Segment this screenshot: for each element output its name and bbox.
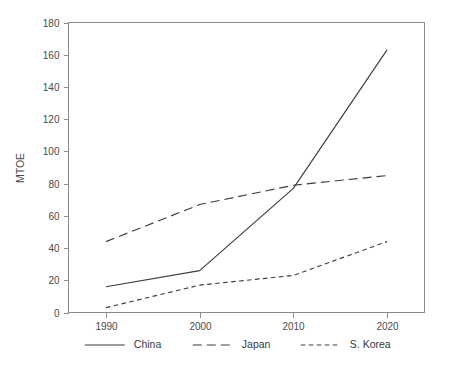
series-layer	[106, 50, 387, 308]
line-chart-figure: 020406080100120140160180 199020002010202…	[0, 0, 450, 369]
x-tick-label: 2010	[282, 321, 305, 332]
y-tick-label: 80	[48, 179, 60, 190]
y-tick-label: 140	[43, 82, 60, 93]
series-line-japan	[106, 176, 387, 242]
series-line-s-korea	[106, 242, 387, 308]
y-axis-title: MTOE	[14, 153, 26, 183]
y-tick-label: 180	[43, 18, 60, 29]
x-tick-label: 2020	[376, 321, 399, 332]
chart-legend: ChinaJapanS. Korea	[85, 338, 391, 350]
y-tick-label: 40	[48, 243, 60, 254]
y-tick-label: 60	[48, 211, 60, 222]
y-tick-label: 20	[48, 275, 60, 286]
y-tick-label: 160	[43, 50, 60, 61]
plot-frame	[69, 23, 425, 313]
chart-canvas: 020406080100120140160180 199020002010202…	[0, 0, 450, 369]
x-tick-label: 1990	[95, 321, 118, 332]
y-tick-label: 0	[54, 308, 60, 319]
y-axis: 020406080100120140160180	[43, 18, 69, 319]
legend-label-japan: Japan	[242, 338, 271, 350]
y-tick-label: 120	[43, 114, 60, 125]
x-tick-label: 2000	[189, 321, 212, 332]
legend-label-s-korea: S. Korea	[350, 338, 391, 350]
legend-label-china: China	[134, 338, 162, 350]
series-line-china	[106, 50, 387, 287]
y-tick-label: 100	[43, 146, 60, 157]
x-axis: 1990200020102020	[95, 313, 399, 332]
